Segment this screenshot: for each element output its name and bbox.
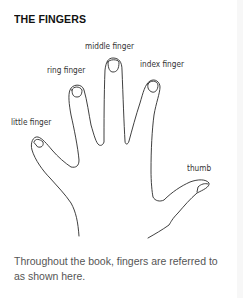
caption-text: Throughout the book, fingers are referre… <box>14 254 229 284</box>
